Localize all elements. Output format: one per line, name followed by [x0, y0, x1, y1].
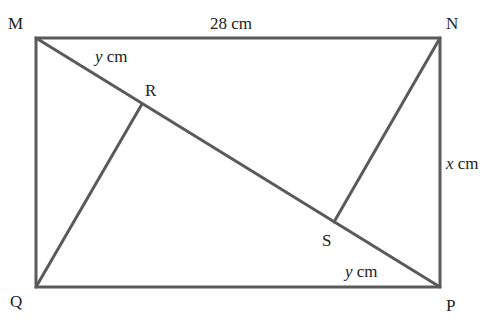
vertex-label-q: Q — [10, 292, 22, 311]
var-y: y — [93, 47, 103, 66]
length-label-sp: y cm — [343, 262, 378, 281]
geometry-diagram: M N P Q R S 28 cm x cm y cm y cm — [0, 0, 503, 322]
segment-qr — [36, 104, 142, 287]
segment-ns — [334, 38, 440, 222]
unit-cm: cm — [103, 47, 128, 66]
var-y: y — [343, 262, 353, 281]
unit-cm: cm — [353, 262, 378, 281]
unit-cm: cm — [454, 154, 479, 173]
length-label-np: x cm — [445, 154, 479, 173]
diagonal-mp — [36, 38, 440, 287]
length-label-mr: y cm — [93, 47, 128, 66]
vertex-label-s: S — [322, 231, 331, 250]
vertex-label-r: R — [145, 81, 157, 100]
length-label-mn: 28 cm — [210, 14, 252, 33]
vertex-label-p: P — [446, 296, 455, 315]
vertex-label-m: M — [8, 14, 23, 33]
vertex-label-n: N — [446, 14, 458, 33]
